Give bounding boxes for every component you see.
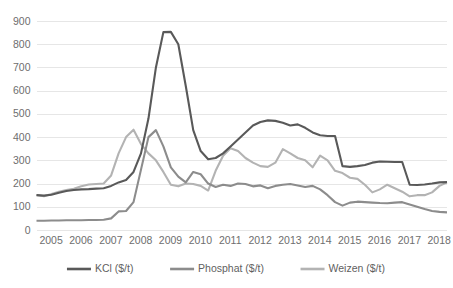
y-tick-label: 600 (13, 84, 31, 96)
x-tick-label: 2018 (428, 234, 452, 246)
x-tick-label: 2014 (308, 234, 332, 246)
x-tick-label: 2011 (219, 234, 242, 246)
x-tick-label: 2012 (248, 234, 272, 246)
y-tick-label: 300 (13, 154, 31, 166)
y-tick-label: 800 (13, 38, 31, 50)
x-tick-label: 2006 (69, 234, 93, 246)
x-tick-label: 2010 (189, 234, 213, 246)
legend-item-label: Phosphat ($/t) (198, 262, 264, 274)
y-tick-label: 500 (13, 107, 31, 119)
x-tick-label: 2005 (39, 234, 63, 246)
line-chart: 0100200300400500600700800900 20052006200… (0, 0, 453, 288)
legend-item-label: Weizen ($/t) (329, 262, 385, 274)
chart-canvas: 0100200300400500600700800900 20052006200… (0, 0, 453, 288)
legend-item-label: KCl ($/t) (95, 262, 134, 274)
y-tick-label: 100 (13, 200, 31, 212)
y-tick-label: 900 (13, 15, 31, 27)
x-tick-label: 2009 (159, 234, 183, 246)
y-tick-label: 200 (13, 177, 31, 189)
x-tick-label: 2008 (129, 234, 153, 246)
x-tick-label: 2017 (398, 234, 422, 246)
x-tick-label: 2016 (368, 234, 392, 246)
x-tick-label: 2015 (338, 234, 362, 246)
y-tick-label: 700 (13, 61, 31, 73)
y-tick-label: 0 (25, 224, 31, 236)
chart-legend: KCl ($/t)Phosphat ($/t)Weizen ($/t) (67, 262, 385, 274)
x-tick-label: 2007 (99, 234, 123, 246)
x-tick-label: 2013 (278, 234, 302, 246)
y-tick-label: 400 (13, 131, 31, 143)
